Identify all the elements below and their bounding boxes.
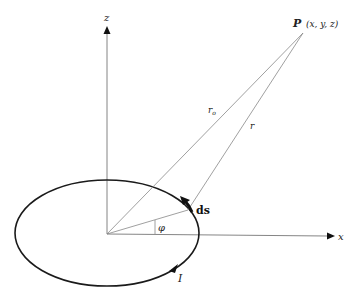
current-label: I — [177, 272, 183, 285]
r-element-line — [188, 33, 303, 210]
x-axis: x — [107, 231, 344, 242]
loop-diagram: z x I ro r φ ds P (x, y, z) — [0, 0, 359, 296]
x-axis-label: x — [338, 231, 344, 242]
z-axis-label: z — [103, 12, 110, 23]
point-coords-label: (x, y, z) — [306, 19, 339, 29]
point-label: P — [292, 17, 302, 30]
r-origin-label: ro — [208, 105, 216, 116]
z-axis: z — [103, 12, 111, 234]
x-axis-arrow-icon — [327, 233, 335, 240]
z-axis-arrow-icon — [104, 26, 111, 34]
angle-label: φ — [158, 222, 165, 233]
line-element-label: ds — [196, 204, 210, 217]
r-element-label: r — [250, 121, 255, 131]
line-element-arrow — [180, 196, 192, 212]
